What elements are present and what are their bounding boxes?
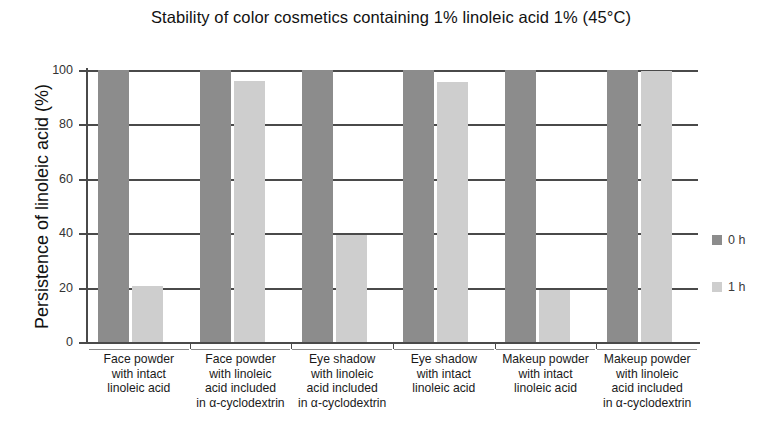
category-label-line: linoleic acid (82, 381, 196, 396)
category-label-line: acid included (285, 381, 399, 396)
bar-0h (98, 70, 129, 342)
x-axis-tick (190, 342, 191, 349)
category-label-line: acid included (590, 381, 704, 396)
bar-1h (539, 290, 570, 342)
y-tick-mark (79, 179, 87, 181)
bar-0h (607, 70, 638, 342)
plot-area (88, 70, 698, 342)
chart-title: Stability of color cosmetics containing … (0, 8, 782, 27)
legend-label: 0 h (728, 233, 745, 247)
category-label: Makeup powderwith linoleicacid includedi… (590, 352, 704, 410)
y-tick-label: 100 (25, 63, 73, 77)
category-label-line: with intact (387, 367, 501, 382)
category-label-line: with intact (489, 367, 603, 382)
category-label-line: Makeup powder (489, 352, 603, 367)
legend-swatch-icon (712, 235, 722, 245)
y-axis-title: Persistence of linoleic acid (%) (32, 57, 53, 357)
x-group-rule (597, 349, 697, 350)
x-axis-tick (393, 342, 394, 349)
category-label: Makeup powderwith intactlinoleic acid (489, 352, 603, 396)
category-label-line: with linoleic (590, 367, 704, 382)
category-label-line: in α-cyclodextrin (184, 396, 298, 411)
category-label-line: linoleic acid (387, 381, 501, 396)
category-label: Eye shadowwith intactlinoleic acid (387, 352, 501, 396)
y-tick-label: 20 (25, 281, 73, 295)
bar-1h (336, 235, 367, 342)
y-tick-mark (79, 124, 87, 126)
y-tick-label: 60 (25, 172, 73, 186)
x-group-rule (191, 349, 291, 350)
bar-0h (302, 70, 333, 342)
bar-0h (403, 70, 434, 342)
bar-1h (234, 81, 265, 342)
category-label-line: Face powder (184, 352, 298, 367)
y-tick-label: 0 (25, 335, 73, 349)
legend-label: 1 h (728, 280, 745, 294)
legend-item-1h: 1 h (712, 280, 745, 294)
x-group-rule (394, 349, 494, 350)
category-label: Eye shadowwith linoleicacid includedin α… (285, 352, 399, 410)
legend-swatch-icon (712, 282, 722, 292)
bar-0h (505, 70, 536, 342)
category-label-line: in α-cyclodextrin (590, 396, 704, 411)
category-label-line: in α-cyclodextrin (285, 396, 399, 411)
x-axis-tick (495, 342, 496, 349)
category-label-line: Face powder (82, 352, 196, 367)
y-tick-mark (79, 233, 87, 235)
category-label-line: Eye shadow (387, 352, 501, 367)
y-tick-label: 40 (25, 226, 73, 240)
bar-1h (132, 286, 163, 342)
legend-item-0h: 0 h (712, 233, 745, 247)
y-tick-mark (79, 342, 87, 344)
x-group-rule (89, 349, 189, 350)
category-label-line: with linoleic (285, 367, 399, 382)
category-label-line: acid included (184, 381, 298, 396)
y-tick-label: 80 (25, 117, 73, 131)
bar-1h (641, 71, 672, 342)
x-axis-tick (291, 342, 292, 349)
x-group-rule (496, 349, 596, 350)
x-group-rule (292, 349, 392, 350)
bar-1h (437, 82, 468, 342)
y-tick-mark (79, 70, 87, 72)
chart-figure: Stability of color cosmetics containing … (0, 0, 782, 430)
category-label-line: linoleic acid (489, 381, 603, 396)
category-label-line: Makeup powder (590, 352, 704, 367)
x-axis-tick (596, 342, 597, 349)
y-tick-mark (79, 288, 87, 290)
category-label-line: Eye shadow (285, 352, 399, 367)
bar-0h (200, 70, 231, 342)
category-label: Face powderwith intactlinoleic acid (82, 352, 196, 396)
category-label: Face powderwith linoleicacid includedin … (184, 352, 298, 410)
category-label-line: with linoleic (184, 367, 298, 382)
category-label-line: with intact (82, 367, 196, 382)
